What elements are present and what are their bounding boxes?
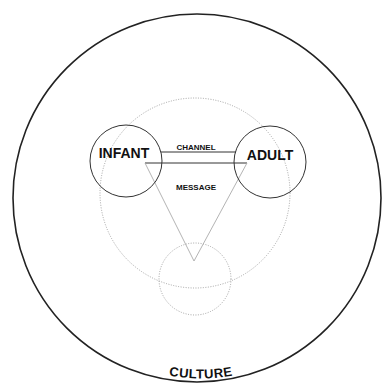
- infant-label: INFANT: [99, 145, 150, 161]
- message-label: MESSAGE: [176, 183, 217, 192]
- lower-dotted-circle: [159, 243, 231, 315]
- triangle-left-edge: [145, 163, 194, 261]
- communication-diagram: INFANT ADULT CHANNEL MESSAGE CULTURE: [0, 0, 389, 391]
- adult-label: ADULT: [247, 147, 294, 163]
- culture-circle: [13, 14, 381, 382]
- culture-label-text: CULTURE: [168, 364, 233, 382]
- infant-circle: [90, 125, 162, 197]
- triangle-right-edge: [194, 163, 247, 261]
- channel-label: CHANNEL: [176, 143, 215, 152]
- culture-label: CULTURE: [168, 364, 233, 382]
